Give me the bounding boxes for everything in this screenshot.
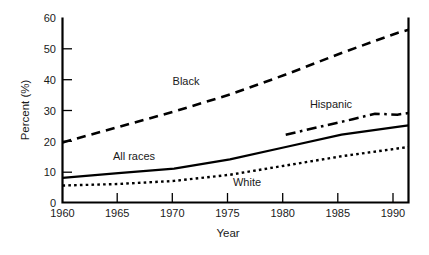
y-tick-label-30: 30 — [44, 105, 56, 117]
y-axis-title: Percent (%) — [19, 79, 31, 140]
series-label-black: Black — [173, 75, 200, 87]
line-chart: 60 50 40 30 20 10 0 1960 1965 1970 1975 … — [0, 0, 429, 255]
series-label-hispanic: Hispanic — [310, 98, 353, 110]
y-tick-label-10: 10 — [44, 166, 56, 178]
y-tick-label-50: 50 — [44, 43, 56, 55]
y-tick-label-40: 40 — [44, 74, 56, 86]
series-label-white: White — [233, 176, 261, 188]
x-axis-title: Year — [216, 227, 239, 239]
x-tick-label-1965: 1965 — [105, 207, 129, 219]
x-tick-label-1985: 1985 — [326, 207, 350, 219]
chart-figure: 60 50 40 30 20 10 0 1960 1965 1970 1975 … — [0, 0, 429, 255]
x-tick-label-1975: 1975 — [215, 207, 239, 219]
x-tick-label-1960: 1960 — [50, 207, 74, 219]
x-tick-label-1970: 1970 — [160, 207, 184, 219]
x-tick-label-1990: 1990 — [381, 207, 405, 219]
series-label-all-races: All races — [113, 150, 156, 162]
y-tick-label-20: 20 — [44, 136, 56, 148]
x-tick-label-1980: 1980 — [270, 207, 294, 219]
y-tick-label-60: 60 — [44, 12, 56, 24]
